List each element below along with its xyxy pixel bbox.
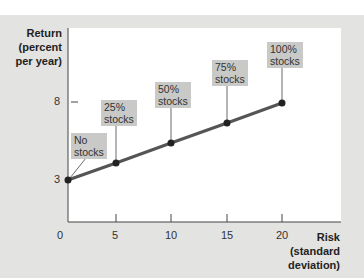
point-100 [279, 100, 286, 107]
y-label-line: Return [16, 26, 62, 40]
annotation-25: 25% stocks [101, 100, 137, 126]
y-label-line: per year) [16, 54, 62, 68]
x-tick-label: 10 [165, 229, 177, 241]
x-label-line: deviation) [288, 258, 340, 272]
annotation-100: 100% stocks [267, 42, 303, 68]
point-50 [168, 140, 175, 147]
annotation-line: stocks [215, 73, 245, 85]
x-tick-label: 20 [276, 229, 288, 241]
point-no-stocks [65, 177, 72, 184]
annotation-75: 75% stocks [212, 60, 248, 86]
annotation-line: No [74, 134, 104, 146]
x-label-line: Risk [288, 230, 340, 244]
y-axis-label: Return (percent per year) [16, 26, 62, 68]
annotation-line: 100% [270, 43, 300, 55]
y-tick-label: 8 [54, 95, 60, 107]
y-tick-label: 3 [54, 173, 60, 185]
point-25 [113, 160, 120, 167]
point-75 [224, 120, 231, 127]
annotation-line: stocks [270, 55, 300, 67]
annotation-line: stocks [158, 95, 188, 107]
y-label-line: (percent [16, 40, 62, 54]
annotation-line: stocks [74, 146, 104, 158]
annotation-line: 50% [158, 83, 188, 95]
annotation-line: stocks [104, 113, 134, 125]
annotation-line: 75% [215, 61, 245, 73]
annotation-line: 25% [104, 101, 134, 113]
x-tick-label: 0 [57, 229, 63, 241]
x-tick-label: 15 [221, 229, 233, 241]
x-axis-label: Risk (standard deviation) [288, 230, 340, 272]
annotation-no-stocks: No stocks [71, 133, 107, 159]
annotation-50: 50% stocks [155, 82, 191, 108]
x-tick-label: 5 [112, 229, 118, 241]
x-label-line: (standard [288, 244, 340, 258]
